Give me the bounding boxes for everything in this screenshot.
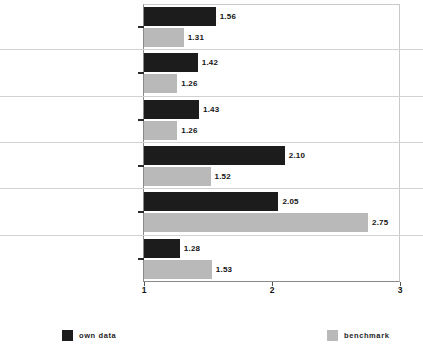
bar-own-data xyxy=(144,192,278,211)
legend-label-own-data: own data xyxy=(79,331,116,340)
bar-value-own-data: 1.43 xyxy=(203,105,219,114)
bar-benchmark xyxy=(144,74,177,93)
legend-swatch-benchmark-icon xyxy=(327,330,338,341)
bar-benchmark xyxy=(144,260,212,279)
bar-group: Museums / sights2.052.75 xyxy=(0,189,423,235)
bar-own-data xyxy=(144,100,199,119)
bar-value-own-data: 1.42 xyxy=(202,58,218,67)
x-tick-label: 3 xyxy=(398,285,403,295)
bar-group: Satisfaction with the vacation1.561.31 xyxy=(0,4,423,50)
bar-value-benchmark: 1.31 xyxy=(188,33,204,42)
bar-own-data xyxy=(144,53,198,72)
bar-own-data xyxy=(144,7,216,26)
bar-value-benchmark: 1.26 xyxy=(181,126,197,135)
bar-value-own-data: 2.05 xyxy=(282,197,298,206)
chart-legend: own data benchmark xyxy=(0,330,423,348)
bar-benchmark xyxy=(144,121,177,140)
x-tick-label: 1 xyxy=(142,285,147,295)
bar-value-benchmark: 1.53 xyxy=(216,265,232,274)
x-tick-label: 2 xyxy=(270,285,275,295)
bar-value-benchmark: 2.75 xyxy=(372,218,388,227)
bar-group: Sports offers2.101.52 xyxy=(0,143,423,189)
bar-benchmark xyxy=(144,167,211,186)
legend-entry-own-data: own data xyxy=(62,330,116,341)
bar-group: Accommodation1.421.26 xyxy=(0,50,423,96)
bar-value-benchmark: 1.26 xyxy=(181,79,197,88)
bar-own-data xyxy=(144,146,285,165)
legend-entry-benchmark: benchmark xyxy=(327,330,389,341)
legend-label-benchmark: benchmark xyxy=(344,331,389,340)
bar-benchmark xyxy=(144,213,368,232)
bar-own-data xyxy=(144,239,180,258)
bar-group: Culinary offers1.431.26 xyxy=(0,97,423,143)
bar-benchmark xyxy=(144,28,184,47)
legend-swatch-own-data-icon xyxy=(62,330,73,341)
bar-value-own-data: 1.28 xyxy=(184,244,200,253)
bar-value-own-data: 1.56 xyxy=(220,12,236,21)
bar-chart: Satisfaction with the vacation1.561.31Ac… xyxy=(0,0,423,359)
bar-value-benchmark: 1.52 xyxy=(215,172,231,181)
bar-group: Wellness / beauty / spa offers1.281.53 xyxy=(0,236,423,282)
bar-value-own-data: 2.10 xyxy=(289,151,305,160)
